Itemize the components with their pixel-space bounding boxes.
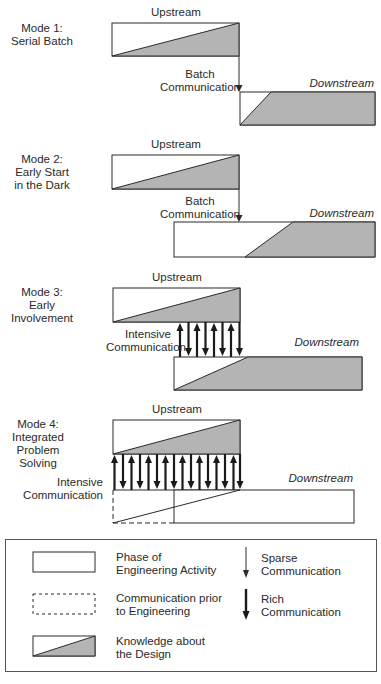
legend-item-prior-communication: Communication prior to Engineering <box>33 592 222 617</box>
legend-item-phase: Phase of Engineering Activity <box>33 551 217 576</box>
mode-1-comm-line-1: Batch <box>185 68 214 80</box>
mode-1-upstream-label: Upstream <box>151 6 201 18</box>
mode-2-upstream-phase <box>112 155 239 189</box>
mode-4-title-line-3: Problem <box>17 444 60 456</box>
rich-arrow-down-icon <box>202 322 209 356</box>
mode-1-downstream-phase <box>240 92 375 125</box>
rich-arrow-down-icon <box>237 454 244 489</box>
rich-arrow-up-icon <box>179 455 186 490</box>
legend-prior-line-2: to Engineering <box>116 605 190 617</box>
mode-4-title-line-2: Integrated <box>12 431 64 443</box>
mode-2-downstream-phase <box>174 222 375 257</box>
mode-3-title-line-3: Involvement <box>11 312 74 324</box>
mode-2-title-line-2: Early Start <box>15 166 69 178</box>
thin-arrow-icon <box>243 547 249 578</box>
dashed-box-icon <box>33 594 95 614</box>
rich-arrow-down-icon <box>236 322 243 356</box>
mode-3-upstream-phase <box>113 288 240 322</box>
rich-arrow-up-icon <box>162 455 169 490</box>
rich-arrow-up-icon <box>228 323 235 357</box>
mode-2-sparse-arrow-icon <box>236 189 243 222</box>
rich-arrow-up-icon <box>213 455 220 490</box>
rich-arrow-down-icon <box>205 454 212 489</box>
solid-box-icon <box>33 552 95 572</box>
legend-knowledge-line-2: the Design <box>116 648 171 660</box>
mode-3-title-line-1: Mode 3: <box>21 286 63 298</box>
mode-1-title-line-1: Mode 1: <box>21 22 63 34</box>
mode-2: Mode 2: Early Start in the Dark Upstream… <box>14 138 375 257</box>
mode-3-comm-line-2: Communication <box>106 341 186 353</box>
mode-2-comm-line-2: Communication <box>160 208 240 220</box>
mode-3-upstream-label: Upstream <box>152 271 202 283</box>
legend-phase-line-1: Phase of <box>116 551 162 563</box>
mode-4-rich-arrows <box>111 454 244 490</box>
legend-rich-line-1: Rich <box>261 593 284 605</box>
rich-arrow-up-icon <box>230 455 237 490</box>
mode-4-downstream-label: Downstream <box>288 472 353 484</box>
mode-4: Mode 4: Integrated Problem Solving Upstr… <box>12 403 354 523</box>
mode-3-downstream-phase <box>174 357 362 390</box>
legend-item-rich: Rich Communication <box>243 589 341 620</box>
mode-3-downstream-label: Downstream <box>294 336 359 348</box>
legend-rich-line-2: Communication <box>261 606 341 618</box>
rich-arrow-down-icon <box>171 454 178 489</box>
mode-4-prior-communication <box>113 490 174 523</box>
rich-arrow-down-icon <box>188 454 195 489</box>
rich-arrow-down-icon <box>185 322 192 356</box>
thick-arrow-icon <box>243 589 250 620</box>
legend-sparse-line-1: Sparse <box>261 552 297 564</box>
mode-4-comm-line-1: Intensive <box>57 476 103 488</box>
mode-2-title-line-1: Mode 2: <box>21 153 63 165</box>
rich-arrow-up-icon <box>145 455 152 490</box>
mode-3-rich-arrows <box>177 322 244 357</box>
legend-prior-line-1: Communication prior <box>116 592 222 604</box>
mode-2-title-line-3: in the Dark <box>14 179 70 191</box>
legend-sparse-line-2: Communication <box>261 565 341 577</box>
rich-arrow-down-icon <box>219 322 226 356</box>
knowledge-box-icon <box>33 636 95 656</box>
mode-4-title-line-1: Mode 4: <box>17 418 59 430</box>
legend-item-sparse: Sparse Communication <box>243 547 341 578</box>
rich-arrow-up-icon <box>194 323 201 357</box>
communication-modes-diagram: Mode 1: Serial Batch Upstream Batch Comm… <box>0 0 381 684</box>
mode-3: Mode 3: Early Involvement Upstream Inten… <box>11 271 362 390</box>
rich-arrow-down-icon <box>137 454 144 489</box>
mode-4-title-line-4: Solving <box>19 457 57 469</box>
mode-3-title-line-2: Early <box>29 299 55 311</box>
rich-arrow-up-icon <box>196 455 203 490</box>
mode-1-sparse-arrow-icon <box>236 56 243 92</box>
rich-arrow-up-icon <box>128 455 135 490</box>
mode-1-title-line-2: Serial Batch <box>11 35 73 47</box>
rich-arrow-down-icon <box>120 454 127 489</box>
legend-item-knowledge: Knowledge about the Design <box>33 635 206 660</box>
mode-1-comm-line-2: Communication <box>160 81 240 93</box>
rich-arrow-down-icon <box>222 454 229 489</box>
mode-3-comm-line-1: Intensive <box>125 328 171 340</box>
rich-arrow-down-icon <box>154 454 161 489</box>
mode-4-upstream-phase <box>113 420 240 454</box>
mode-1-upstream-phase <box>112 23 239 56</box>
legend-knowledge-line-1: Knowledge about <box>116 635 206 647</box>
mode-4-comm-line-2: Communication <box>23 489 103 501</box>
mode-2-downstream-label: Downstream <box>309 207 374 219</box>
mode-4-upstream-label: Upstream <box>152 403 202 415</box>
mode-2-comm-line-1: Batch <box>185 195 214 207</box>
rich-arrow-up-icon <box>111 455 118 490</box>
mode-4-downstream-phase <box>174 490 354 523</box>
rich-arrow-up-icon <box>211 323 218 357</box>
legend-phase-line-2: Engineering Activity <box>116 564 217 576</box>
mode-1: Mode 1: Serial Batch Upstream Batch Comm… <box>11 6 375 125</box>
legend: Phase of Engineering Activity Communicat… <box>6 540 377 672</box>
mode-1-downstream-label: Downstream <box>309 77 374 89</box>
mode-2-upstream-label: Upstream <box>151 138 201 150</box>
